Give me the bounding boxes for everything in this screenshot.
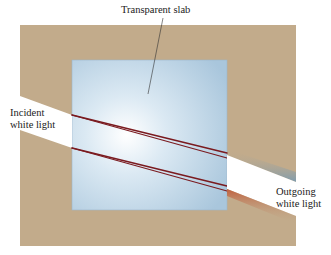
incident-label: Incident white light bbox=[10, 107, 55, 131]
incident-label-line1: Incident bbox=[10, 107, 55, 119]
outgoing-label-line2: white light bbox=[276, 198, 321, 210]
transparent-slab bbox=[72, 60, 227, 210]
outgoing-label: Outgoing white light bbox=[276, 186, 321, 210]
slab-label: Transparent slab bbox=[121, 4, 190, 16]
outgoing-label-line1: Outgoing bbox=[276, 186, 321, 198]
incident-label-line2: white light bbox=[10, 119, 55, 131]
